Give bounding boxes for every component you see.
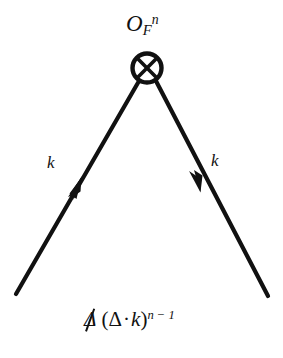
formula-delta: Δ (109, 307, 123, 331)
momentum-right-text: k (211, 151, 219, 170)
formula-exponent: n − 1 (147, 308, 174, 322)
diagram-canvas (0, 0, 283, 358)
momentum-left-text: k (47, 153, 55, 172)
feynman-diagram-figure: OFn k k Δ (Δ·k)n − 1 (0, 0, 283, 358)
formula-dot: · (122, 307, 131, 331)
formula-open-paren: ( (102, 307, 109, 331)
operator-subscript: F (143, 22, 152, 38)
bottom-formula: Δ (Δ·k)n − 1 (84, 309, 175, 330)
momentum-label-left: k (47, 154, 55, 171)
operator-superscript: n (152, 12, 159, 27)
operator-base: O (126, 11, 143, 36)
momentum-label-right: k (211, 152, 219, 169)
slashed-delta-symbol: Δ (84, 309, 96, 330)
right-leg-line (156, 81, 268, 296)
operator-label: OFn (126, 12, 159, 38)
